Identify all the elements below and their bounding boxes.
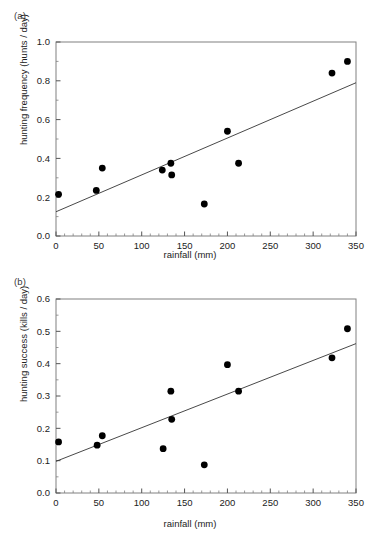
panel-a: (a) 0501001502002503003500.00.20.40.60.8… bbox=[0, 0, 380, 268]
y-axis-tick-label: 0.4 bbox=[37, 153, 50, 164]
y-axis-tick-label: 0.5 bbox=[37, 326, 50, 337]
panel-a-x-axis-title: rainfall (mm) bbox=[0, 249, 380, 260]
x-axis-tick-label: 100 bbox=[134, 497, 150, 508]
y-axis-tick-label: 0.0 bbox=[37, 230, 50, 241]
data-point bbox=[159, 167, 166, 174]
data-point bbox=[344, 58, 351, 65]
figure-container: (a) 0501001502002503003500.00.20.40.60.8… bbox=[0, 0, 380, 537]
y-axis-tick-label: 0.2 bbox=[37, 192, 50, 203]
data-point bbox=[93, 187, 100, 194]
regression-line bbox=[56, 344, 356, 462]
data-point bbox=[168, 171, 175, 178]
data-point bbox=[224, 128, 231, 135]
data-point bbox=[160, 445, 167, 452]
y-axis-tick-label: 0.0 bbox=[37, 487, 50, 498]
x-axis-tick-label: 250 bbox=[262, 497, 278, 508]
data-point bbox=[344, 325, 351, 332]
data-point bbox=[235, 160, 242, 167]
y-axis-tick-label: 1.0 bbox=[37, 36, 50, 47]
data-point bbox=[235, 388, 242, 395]
x-axis-tick-label: 0 bbox=[53, 497, 58, 508]
data-point bbox=[201, 461, 208, 468]
data-point bbox=[55, 439, 62, 446]
panel-b: (b) 0501001502002503003500.00.10.20.30.4… bbox=[0, 268, 380, 537]
x-axis-tick-label: 350 bbox=[348, 497, 364, 508]
y-axis-tick-label: 0.1 bbox=[37, 455, 50, 466]
panel-b-x-axis-title: rainfall (mm) bbox=[0, 518, 380, 529]
data-point bbox=[94, 442, 101, 449]
y-axis-tick-label: 0.4 bbox=[37, 358, 50, 369]
data-point bbox=[99, 165, 106, 172]
panel-b-plot: 0501001502002503003500.00.10.20.30.40.50… bbox=[0, 268, 380, 537]
data-point bbox=[99, 432, 106, 439]
data-point bbox=[167, 388, 174, 395]
x-axis-tick-label: 300 bbox=[305, 497, 321, 508]
x-axis-tick-label: 200 bbox=[219, 497, 235, 508]
panel-a-y-axis-title: hunting frequency (hunts / day) bbox=[18, 14, 29, 145]
regression-line bbox=[56, 83, 356, 212]
data-point bbox=[201, 201, 208, 208]
data-point bbox=[329, 70, 336, 77]
y-axis-tick-label: 0.6 bbox=[37, 293, 50, 304]
data-point bbox=[329, 354, 336, 361]
y-axis-tick-label: 0.8 bbox=[37, 75, 50, 86]
panel-a-plot: 0501001502002503003500.00.20.40.60.81.0 bbox=[0, 0, 380, 268]
panel-b-y-axis-title: hunting success (kills / day) bbox=[18, 285, 29, 401]
x-axis-tick-label: 50 bbox=[94, 497, 105, 508]
data-point bbox=[55, 191, 62, 198]
data-point bbox=[167, 160, 174, 167]
y-axis-tick-label: 0.2 bbox=[37, 423, 50, 434]
x-axis-tick-label: 150 bbox=[177, 497, 193, 508]
y-axis-tick-label: 0.6 bbox=[37, 114, 50, 125]
data-point bbox=[224, 361, 231, 368]
data-point bbox=[168, 416, 175, 423]
y-axis-tick-label: 0.3 bbox=[37, 390, 50, 401]
